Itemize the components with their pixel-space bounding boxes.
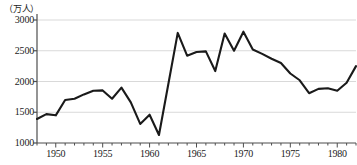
- gridlines: [37, 20, 356, 112]
- axis-ticks: [33, 20, 356, 148]
- line-chart: （万人） 10001500200025003000 19501955196019…: [0, 0, 357, 165]
- axis-lines: [37, 14, 356, 143]
- plot-area: [0, 0, 357, 165]
- data-series-line: [37, 32, 356, 135]
